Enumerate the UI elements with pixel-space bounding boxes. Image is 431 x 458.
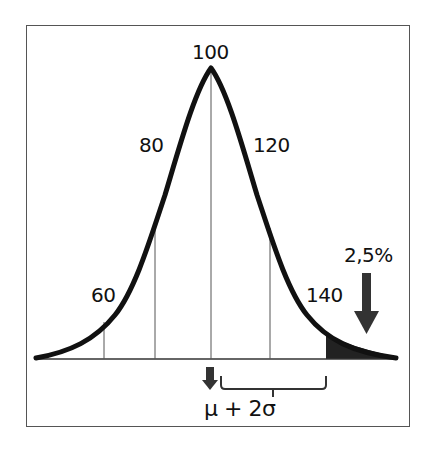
bell-curve-graphic (0, 0, 431, 458)
label-140: 140 (306, 285, 343, 305)
bell-curve (36, 68, 396, 358)
label-60: 60 (91, 285, 115, 305)
mean-arrow-icon (202, 367, 218, 390)
label-peak-100: 100 (192, 42, 229, 62)
label-120: 120 (253, 135, 290, 155)
label-mu-plus-2-sigma: μ + 2σ (204, 398, 275, 420)
label-80: 80 (139, 135, 163, 155)
two-sigma-bracket (221, 376, 326, 397)
label-tail-percent: 2,5% (344, 245, 393, 265)
tail-arrow-icon (354, 273, 379, 334)
